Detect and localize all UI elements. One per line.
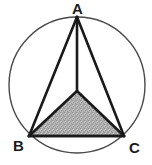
vertex-label-c: C [129,140,140,155]
vertex-label-a: A [72,1,83,16]
vertex-label-b: B [13,138,24,153]
vertex-point-b [27,134,30,137]
geometry-figure: A B C [0,0,152,165]
vertex-point-c [122,134,125,137]
